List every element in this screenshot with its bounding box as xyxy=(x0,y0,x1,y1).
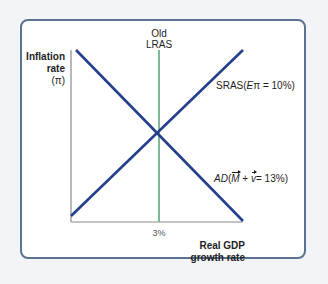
x-axis-label: Real GDP growth rate xyxy=(175,240,245,264)
x-tick-3pct: 3% xyxy=(144,228,174,239)
ad-label-prefix: AD xyxy=(214,173,228,184)
sras-label: SRAS(Eπ = 10%) xyxy=(216,80,295,91)
lras-label: Old LRAS xyxy=(139,28,179,50)
y-axis-label-line3: (π) xyxy=(15,75,65,87)
y-axis-label: Inflation rate (π) xyxy=(15,51,65,87)
sras-curve xyxy=(71,50,243,216)
ad-label-plus: + xyxy=(240,173,251,184)
x-axis-label-line2: growth rate xyxy=(175,252,245,264)
y-axis-label-line1: Inflation xyxy=(15,51,65,63)
sras-label-rest: = 10%) xyxy=(260,80,295,91)
lras-label-line2: LRAS xyxy=(139,39,179,50)
ad-label-rest: = 13%) xyxy=(256,173,288,184)
y-axis-label-line2: rate xyxy=(15,63,65,75)
diagram-stage: Old LRAS Inflation rate (π) SRAS(Eπ = 10… xyxy=(0,0,328,284)
ad-label-v-vector: v xyxy=(251,173,256,184)
sras-label-prefix: SRAS( xyxy=(216,80,247,91)
ad-label: AD(M + v= 13%) xyxy=(214,173,288,184)
x-axis-label-line1: Real GDP xyxy=(175,240,245,252)
lras-label-line1: Old xyxy=(139,28,179,39)
ad-label-m-vector: M xyxy=(231,173,239,184)
